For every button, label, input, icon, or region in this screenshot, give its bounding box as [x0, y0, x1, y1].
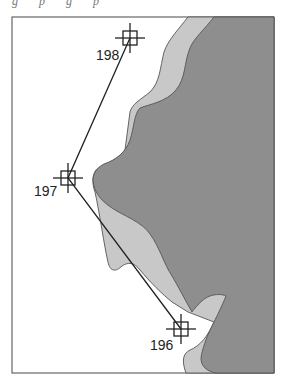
nautical-map: 198 197 196 [0, 0, 281, 382]
waypoint-198-label: 198 [96, 47, 120, 63]
waypoint-196-label: 196 [150, 337, 174, 353]
waypoint-197-label: 197 [34, 183, 58, 199]
